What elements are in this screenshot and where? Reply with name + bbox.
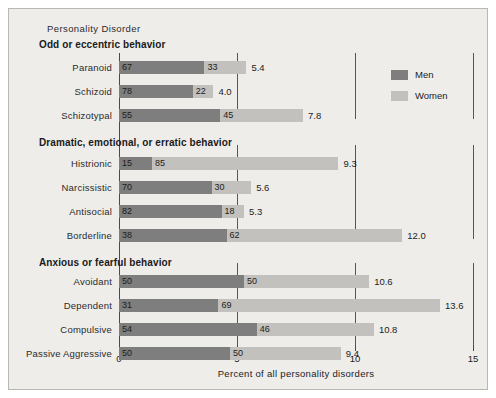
bar-value-men: 31 <box>122 299 132 312</box>
bar-segment-women: 85 <box>152 157 339 170</box>
gridline-15 <box>473 145 474 239</box>
bar-value-men: 54 <box>122 323 132 336</box>
row-category-label: Dependent <box>64 299 112 312</box>
bar-total-label: 7.8 <box>308 109 321 122</box>
chart-row: Antisocial82185.3 <box>119 205 244 218</box>
bar-segment-women: 22 <box>193 85 214 98</box>
bar-value-men: 50 <box>122 347 132 360</box>
chart-row: Borderline386212.0 <box>119 229 402 242</box>
bar-total-label: 5.6 <box>256 181 269 194</box>
bar-total-label: 5.4 <box>251 61 264 74</box>
bar-segment-women: 18 <box>222 205 245 218</box>
gridline-10 <box>355 53 356 119</box>
bar-total-label: 5.3 <box>249 205 262 218</box>
legend-label: Men <box>415 69 433 81</box>
chart-row: Paranoid67335.4 <box>119 61 246 74</box>
bar-segment-men: 31 <box>119 299 218 312</box>
bar-segment-women: 50 <box>230 347 341 360</box>
plot-area: 051015Percent of all personality disorde… <box>9 9 489 391</box>
bar-value-men: 70 <box>122 181 132 194</box>
bar-value-men: 15 <box>122 157 132 170</box>
bar-value-women: 45 <box>223 109 233 122</box>
bar-value-women: 50 <box>247 275 257 288</box>
bar-segment-men: 70 <box>119 181 212 194</box>
x-axis-title: Percent of all personality disorders <box>218 368 375 379</box>
section-title: Anxious or fearful behavior <box>39 257 172 268</box>
bar-segment-men: 82 <box>119 205 222 218</box>
bar-segment-men: 38 <box>119 229 227 242</box>
chart-row: Passive Aggressive50509.4 <box>119 347 341 360</box>
bar-value-women: 22 <box>196 85 206 98</box>
bar-value-women: 46 <box>260 323 270 336</box>
row-category-label: Narcissistic <box>62 181 112 194</box>
bar-value-women: 50 <box>233 347 243 360</box>
chart-row: Compulsive544610.8 <box>119 323 374 336</box>
bar-total-label: 9.4 <box>346 347 359 360</box>
gridline-15 <box>473 263 474 345</box>
bar-value-men: 78 <box>122 85 132 98</box>
gridline-15 <box>473 53 474 119</box>
bar-value-women: 30 <box>215 181 225 194</box>
bar-value-men: 82 <box>122 205 132 218</box>
chart-row: Avoidant505010.6 <box>119 275 369 288</box>
x-axis-tick-15 <box>473 345 474 351</box>
row-category-label: Antisocial <box>69 205 112 218</box>
bar-value-men: 38 <box>122 229 132 242</box>
bar-total-label: 12.0 <box>407 229 426 242</box>
chart-panel: Personality Disorder 051015Percent of al… <box>8 8 488 390</box>
row-category-label: Schizoid <box>74 85 112 98</box>
bar-total-label: 13.6 <box>445 299 464 312</box>
bar-segment-men: 15 <box>119 157 152 170</box>
bar-value-women: 85 <box>155 157 165 170</box>
legend-swatch-men <box>391 70 408 80</box>
row-category-label: Histrionic <box>71 157 112 170</box>
legend-label: Women <box>415 90 448 102</box>
bar-value-men: 50 <box>122 275 132 288</box>
row-category-label: Compulsive <box>60 323 112 336</box>
bar-segment-men: 78 <box>119 85 193 98</box>
bar-segment-women: 69 <box>218 299 439 312</box>
row-category-label: Avoidant <box>74 275 112 288</box>
section-title: Dramatic, emotional, or erratic behavior <box>39 137 232 148</box>
bar-value-men: 67 <box>122 61 132 74</box>
bar-segment-men: 54 <box>119 323 257 336</box>
bar-segment-men: 50 <box>119 275 244 288</box>
bar-value-women: 62 <box>230 229 240 242</box>
row-category-label: Passive Aggressive <box>26 347 112 360</box>
legend-swatch-women <box>391 91 408 101</box>
bar-segment-women: 62 <box>227 229 403 242</box>
bar-segment-women: 30 <box>212 181 252 194</box>
bar-total-label: 4.0 <box>218 85 231 98</box>
bar-segment-men: 50 <box>119 347 230 360</box>
bar-segment-women: 33 <box>204 61 246 74</box>
bar-total-label: 9.3 <box>343 157 356 170</box>
bar-value-men: 55 <box>122 109 132 122</box>
bar-segment-women: 45 <box>220 109 303 122</box>
chart-row: Schizoid78224.0 <box>119 85 213 98</box>
row-category-label: Paranoid <box>72 61 112 74</box>
chart-row: Narcissistic70305.6 <box>119 181 251 194</box>
x-axis-tick-label-15: 15 <box>468 353 479 364</box>
bar-total-label: 10.8 <box>379 323 398 336</box>
bar-value-women: 69 <box>221 299 231 312</box>
bar-value-women: 33 <box>207 61 217 74</box>
chart-row: Schizotypal55457.8 <box>119 109 303 122</box>
bar-segment-women: 46 <box>257 323 374 336</box>
chart-row: Dependent316913.6 <box>119 299 440 312</box>
row-category-label: Schizotypal <box>61 109 112 122</box>
section-title: Odd or eccentric behavior <box>39 39 165 50</box>
chart-row: Histrionic15859.3 <box>119 157 338 170</box>
bar-segment-men: 67 <box>119 61 204 74</box>
row-category-label: Borderline <box>67 229 112 242</box>
bar-segment-men: 55 <box>119 109 220 122</box>
bar-total-label: 10.6 <box>374 275 393 288</box>
bar-segment-women: 50 <box>244 275 369 288</box>
bar-value-women: 18 <box>225 205 235 218</box>
